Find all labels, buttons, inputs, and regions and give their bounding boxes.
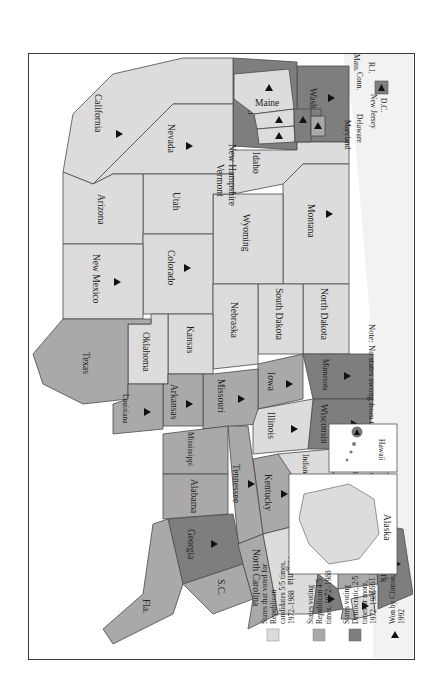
state-nebraska[interactable]: Nebraska [213,284,258,369]
svg-text:Montana: Montana [306,204,316,239]
state-vermont[interactable] [257,126,295,144]
state-alabama[interactable]: Alabama [163,474,228,519]
label-new-hampshire: New Hampshire [227,144,237,206]
state-oklahoma[interactable]: Oklahoma [128,314,168,384]
label-rhode-island: R.I. [367,62,376,73]
state-rhode-island[interactable] [311,109,321,116]
alaska-inset[interactable]: Alaska [289,474,397,574]
svg-text:Maine: Maine [255,98,279,108]
state-connecticut[interactable] [311,116,325,136]
state-north-dakota[interactable]: North Dakota [303,284,349,354]
state-minnesota[interactable]: Minnesota [303,354,373,399]
svg-text:Arizona: Arizona [96,194,106,225]
label-maryland: Maryland [343,120,352,149]
state-kansas[interactable]: Kansas [168,314,213,374]
svg-text:Wisconsin: Wisconsin [319,404,329,444]
svg-text:Iowa: Iowa [266,372,276,392]
svg-text:New Mexico: New Mexico [91,254,101,304]
us-election-map: Washington Oregon California Nevada Idah… [29,54,413,658]
label-vermont: Vermont [215,164,225,197]
svg-text:Nebraska: Nebraska [229,302,239,339]
svg-text:Idaho: Idaho [251,152,261,174]
svg-text:Wyoming: Wyoming [241,214,251,252]
svg-text:Oklahoma: Oklahoma [141,332,151,372]
svg-text:Nevada: Nevada [166,124,176,154]
svg-text:Fla.: Fla. [141,599,151,614]
svg-text:Missouri: Missouri [216,379,226,413]
svg-text:Alaska: Alaska [382,514,392,541]
svg-text:D.C.: D.C. [379,98,388,112]
label-delaware: Delaware [355,114,364,143]
svg-text:Louisiana: Louisiana [121,394,130,424]
state-arizona[interactable]: Arizona [63,172,143,244]
svg-text:Texas: Texas [81,352,91,374]
label-connecticut: Conn. [355,72,364,90]
svg-text:Tennessee: Tennessee [231,464,241,503]
label-new-jersey: New Jersey [369,94,378,129]
hawaii-inset[interactable]: Hawaii [329,424,397,472]
state-south-dakota[interactable]: South Dakota [258,284,303,354]
state-new-mexico[interactable]: New Mexico [63,244,143,319]
svg-text:Mississippi: Mississippi [186,432,195,466]
svg-text:Kansas: Kansas [185,326,195,354]
svg-text:Arkansas: Arkansas [169,384,179,420]
svg-text:Georgia: Georgia [186,529,196,560]
svg-text:Alabama: Alabama [189,479,199,514]
state-montana[interactable]: Montana [283,164,349,284]
state-colorado[interactable]: Colorado [143,234,213,314]
state-wyoming[interactable]: Wyoming [213,194,283,284]
state-missouri[interactable]: Missouri [203,369,258,429]
svg-text:S.C.: S.C. [216,579,226,595]
state-massachusetts[interactable] [294,109,311,142]
svg-text:Illinois: Illinois [266,412,276,439]
svg-text:North Dakota: North Dakota [319,288,329,341]
svg-text:Utah: Utah [171,192,181,211]
label-massachusetts: Mass. [352,54,361,72]
state-iowa[interactable]: Iowa [258,354,303,409]
state-mississippi[interactable]: Mississippi [163,426,228,474]
svg-text:Minnesota: Minnesota [321,359,330,391]
svg-text:South Dakota: South Dakota [274,288,284,341]
map-frame: Washington Oregon California Nevada Idah… [28,53,415,660]
svg-text:Colorado: Colorado [166,250,176,286]
svg-text:Hawaii: Hawaii [377,439,386,461]
svg-text:California: California [93,94,103,133]
state-arkansas[interactable]: Arkansas [163,374,203,426]
svg-text:Kentucky: Kentucky [263,474,273,511]
